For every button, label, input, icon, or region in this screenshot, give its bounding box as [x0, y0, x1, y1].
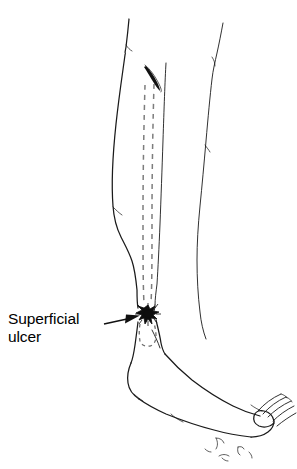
near-leg-outline: [112, 19, 166, 314]
vein-tract-dashed: [143, 84, 154, 304]
ulcer-callout-label: Superficial ulcer: [8, 310, 112, 346]
ulcer-callout-label-line-2: ulcer: [8, 328, 112, 346]
vein-proximal-segment: [144, 65, 161, 92]
foot-outline: [128, 354, 296, 437]
ankle-dashed-loop: [139, 323, 156, 346]
ankle-contours: [131, 320, 165, 363]
far-leg-outline: [197, 23, 223, 339]
leg-ulcer-line-drawing: [0, 0, 297, 469]
ulcer-callout-label-line-1: Superficial: [8, 310, 79, 327]
medical-illustration-figure: Superficial ulcer: [0, 0, 297, 469]
ground-marks: [205, 438, 252, 461]
